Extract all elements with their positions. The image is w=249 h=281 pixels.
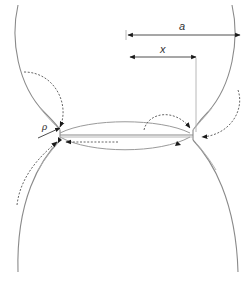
lower-particle-outline-right bbox=[193, 140, 238, 272]
dashed-path-upper-left bbox=[24, 72, 63, 127]
upper-particle-outline-right bbox=[193, 5, 235, 130]
sintering-diagram: a x ρ bbox=[0, 0, 249, 281]
upper-particle-outline bbox=[15, 5, 60, 130]
label-x: x bbox=[159, 43, 166, 55]
lens-upper-arc bbox=[60, 122, 190, 133]
dashed-path-center-right bbox=[144, 115, 190, 130]
label-rho: ρ bbox=[41, 120, 47, 132]
lens-lower-arc bbox=[60, 137, 190, 150]
label-a: a bbox=[179, 20, 185, 32]
